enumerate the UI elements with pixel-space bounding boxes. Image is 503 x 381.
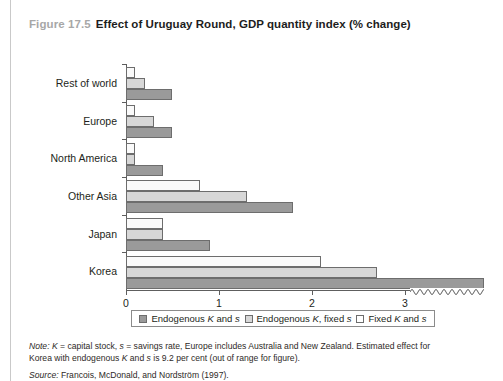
bar	[126, 191, 247, 202]
legend-label: Endogenous K and s	[151, 313, 239, 324]
y-axis-tick	[122, 139, 126, 140]
bar	[126, 240, 210, 251]
source-line: Source: Francois, McDonald, and Nordströ…	[29, 369, 439, 381]
plot-area: 0123Rest of worldEuropeNorth AmericaOthe…	[126, 64, 484, 290]
x-axis-tick	[219, 291, 220, 295]
bar	[126, 89, 172, 100]
y-axis-tick	[122, 64, 126, 65]
legend-item[interactable]: Endogenous K, fixed s	[245, 313, 352, 324]
x-axis-label: 3	[402, 297, 408, 309]
category-label: Other Asia	[68, 190, 117, 202]
y-axis-tick	[122, 252, 126, 253]
note-text: K = capital stock, s = savings rate, Eur…	[29, 341, 430, 363]
bar	[126, 78, 145, 89]
x-axis-label: 1	[216, 297, 222, 309]
figure-notes: Note: K = capital stock, s = savings rat…	[29, 340, 439, 381]
chart-legend: Endogenous K and sEndogenous K, fixed sF…	[131, 310, 435, 327]
figure-caption: Figure 17.5Effect of Uruguay Round, GDP …	[29, 17, 411, 31]
bar	[126, 165, 163, 176]
legend-label: Fixed K and s	[368, 313, 426, 324]
x-axis-tick	[405, 291, 406, 295]
bar	[126, 154, 135, 165]
bar	[126, 267, 377, 278]
category-label: Rest of world	[56, 77, 117, 89]
note-line: Note: K = capital stock, s = savings rat…	[29, 340, 439, 365]
y-axis-tick	[122, 102, 126, 103]
bar	[126, 229, 163, 240]
chart-container: 0123Rest of worldEuropeNorth AmericaOthe…	[29, 60, 484, 300]
x-axis-label: 0	[123, 297, 129, 309]
category-label: North America	[50, 152, 117, 164]
category-label: Korea	[89, 265, 117, 277]
y-axis-tick	[122, 215, 126, 216]
bar	[126, 127, 172, 138]
bar	[126, 278, 484, 289]
source-text: Francois, McDonald, and Nordström (1997)…	[59, 370, 229, 380]
bar	[126, 218, 163, 229]
page-title: Effect of Uruguay Round, GDP quantity in…	[96, 18, 411, 30]
x-axis-line	[126, 290, 484, 291]
legend-item[interactable]: Endogenous K and s	[139, 313, 239, 324]
legend-swatch-icon	[139, 315, 147, 323]
legend-swatch-icon	[245, 315, 253, 323]
figure-number: Figure 17.5	[29, 18, 91, 30]
bar	[126, 256, 321, 267]
page-margin-rule	[10, 0, 11, 381]
source-label: Source:	[29, 370, 59, 380]
note-label: Note:	[29, 341, 50, 351]
bar	[126, 105, 135, 116]
y-axis-tick	[122, 177, 126, 178]
x-axis-tick	[126, 291, 127, 295]
legend-label: Endogenous K, fixed s	[257, 313, 352, 324]
x-axis-label: 2	[309, 297, 315, 309]
bar	[126, 202, 293, 213]
legend-item[interactable]: Fixed K and s	[356, 313, 426, 324]
category-label: Japan	[88, 228, 117, 240]
legend-swatch-icon	[356, 315, 364, 323]
x-axis-tick	[312, 291, 313, 295]
bar	[126, 143, 135, 154]
category-label: Europe	[83, 115, 117, 127]
bar	[126, 116, 154, 127]
bar	[126, 67, 135, 78]
bar	[126, 180, 200, 191]
